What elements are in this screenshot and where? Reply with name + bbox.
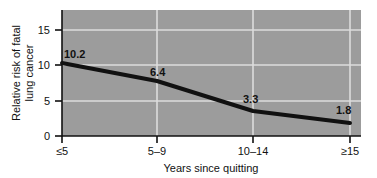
y-tick-label-5: 5: [44, 95, 50, 107]
chart-figure: 15 10 5 0 ≤5 5–9 10–14 ≥15 Years since q…: [0, 0, 377, 178]
relative-risk-line-chart: 15 10 5 0 ≤5 5–9 10–14 ≥15 Years since q…: [0, 0, 377, 178]
x-tick-label-3: ≥15: [341, 145, 359, 157]
y-tick-label-10: 10: [38, 59, 50, 71]
y-tick-label-15: 15: [38, 24, 50, 36]
x-axis-title: Years since quitting: [164, 162, 259, 174]
data-label-1: 6.4: [150, 66, 166, 78]
y-tick-label-0: 0: [44, 130, 50, 142]
y-axis-title-line-1: Relative risk of fatal: [10, 25, 22, 121]
x-tick-label-0: ≤5: [56, 145, 68, 157]
data-label-2: 3.3: [243, 93, 258, 105]
x-tick-label-1: 5–9: [148, 145, 166, 157]
data-label-3: 1.8: [336, 104, 351, 116]
x-tick-label-2: 10–14: [238, 145, 269, 157]
y-axis-title-line-2: lung cancer: [23, 44, 35, 101]
data-label-0: 10.2: [64, 48, 85, 60]
